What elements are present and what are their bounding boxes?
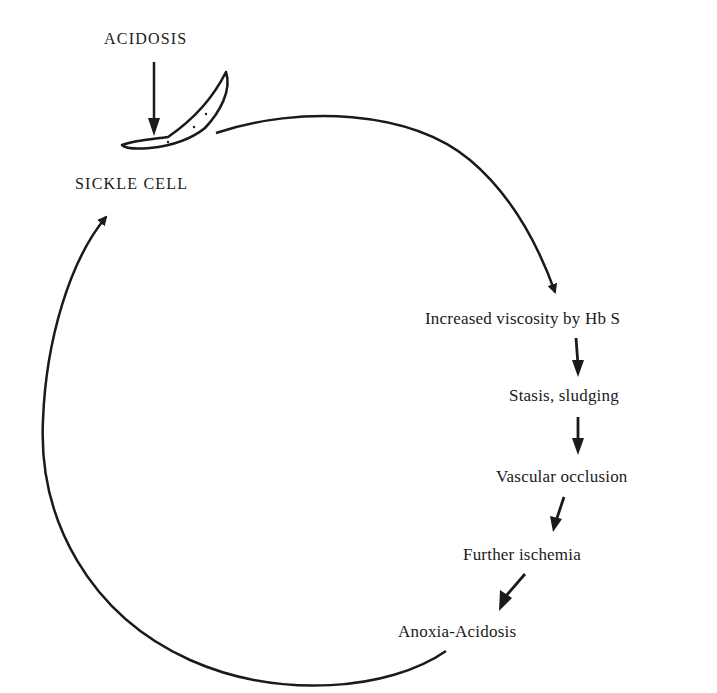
acidosis-arrow-icon bbox=[148, 62, 160, 136]
sickle-cell-label: SICKLE CELL bbox=[75, 175, 188, 193]
step-label-occlusion: Vascular occlusion bbox=[496, 467, 628, 487]
step-arrow-2-icon bbox=[572, 417, 584, 455]
step-arrow-3-icon bbox=[550, 497, 564, 532]
step-arrow-4-icon bbox=[499, 574, 525, 611]
cycle-diagram bbox=[0, 0, 717, 693]
step-label-anoxia: Anoxia-Acidosis bbox=[398, 622, 516, 642]
cycle-arrow-return bbox=[43, 217, 446, 686]
step-label-ischemia: Further ischemia bbox=[463, 545, 581, 565]
step-arrow-1-icon bbox=[572, 338, 584, 377]
sickle-cell-icon bbox=[122, 72, 228, 149]
step-label-viscosity: Increased viscosity by Hb S bbox=[425, 309, 620, 329]
step-label-stasis: Stasis, sludging bbox=[509, 386, 619, 406]
cycle-arrow-top bbox=[216, 116, 555, 292]
trigger-label: ACIDOSIS bbox=[104, 30, 187, 48]
